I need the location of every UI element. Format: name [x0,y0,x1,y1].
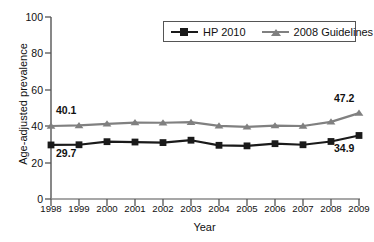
annotation-left-lower: 29.7 [56,147,76,159]
series-2008-guidelines [47,110,364,130]
data-point-square [104,138,111,145]
x-axis-title: Year [51,221,358,233]
data-point-square [244,142,251,149]
x-tick-label: 2008 [316,203,346,214]
x-tick-label: 2006 [260,203,290,214]
x-tick-label: 2007 [288,203,318,214]
data-point-square [356,132,363,139]
data-point-square [76,141,83,148]
x-tick-label: 2003 [176,203,206,214]
data-point-square [216,142,223,149]
y-axis-ticks [45,17,51,199]
legend-item-hp-2010[interactable]: HP 2010 [171,22,246,41]
series-line [51,135,359,145]
annotation-right-lower: 34.9 [334,142,354,154]
x-tick-label: 2002 [148,203,178,214]
x-tick-label: 1998 [36,203,66,214]
legend-label: 2008 Guidelines [294,26,374,38]
data-point-square [188,137,195,144]
x-tick-label: 2009 [344,203,374,214]
x-tick-label: 2004 [204,203,234,214]
data-point-square [48,142,55,149]
legend-item-2008-guidelines[interactable]: 2008 Guidelines [262,22,374,41]
x-tick-label: 1999 [64,203,94,214]
data-point-square [160,139,167,146]
x-tick-label: 2001 [120,203,150,214]
x-tick-label: 2005 [232,203,262,214]
series-line [51,113,359,127]
annotation-left-upper: 40.1 [56,104,76,116]
data-point-square [300,141,307,148]
legend-label: HP 2010 [203,26,246,38]
series-hp-2010 [48,132,363,149]
chart-legend[interactable]: HP 2010 2008 Guidelines [163,21,356,42]
x-tick-label: 2000 [92,203,122,214]
legend-swatch-square-icon [171,26,198,38]
data-point-triangle [355,110,364,116]
legend-swatch-triangle-icon [262,26,289,38]
x-axis-tick-labels: 1998 1999 2000 2001 2002 2003 2004 2005 … [0,203,372,219]
data-point-square [132,139,139,146]
annotation-right-upper: 47.2 [334,92,354,104]
data-point-square [272,140,279,147]
